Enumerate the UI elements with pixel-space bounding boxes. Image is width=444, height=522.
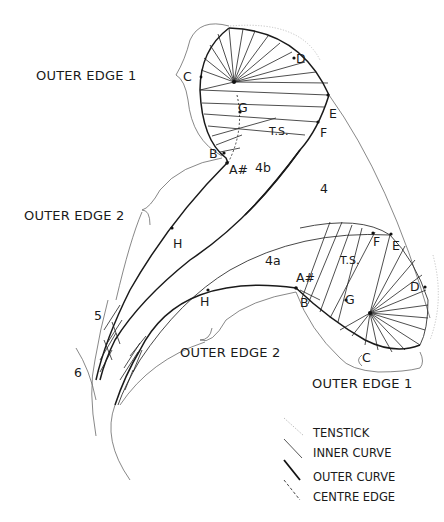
label-point-d-upper: D	[296, 51, 306, 66]
brace-outer-edge-2-lower	[200, 292, 296, 341]
label-h-upper: H	[173, 236, 182, 251]
legend-label-tenstick: TENSTICK	[312, 426, 370, 440]
label-region-4: 4	[320, 181, 328, 196]
legend: TENSTICK INNER CURVE OUTER CURVE CENTRE …	[284, 418, 395, 504]
label-point-f-lower: F	[373, 234, 380, 249]
label-outer-edge-2-lower: OUTER EDGE 2	[180, 345, 280, 360]
legend-label-inner-curve: INNER CURVE	[313, 446, 391, 460]
spokes-upper	[200, 28, 328, 152]
label-outer-edge-1-lower: OUTER EDGE 1	[312, 376, 412, 391]
diagram-canvas: OUTER EDGE 1 C D G E T.S. F B A# 4b 4 OU…	[0, 0, 444, 522]
label-num-6: 6	[74, 365, 82, 380]
label-point-d-lower: D	[410, 279, 420, 294]
label-num-5: 5	[94, 308, 102, 323]
label-point-b-lower: B	[300, 295, 309, 310]
legend-swatch-inner-curve	[284, 439, 302, 458]
label-outer-edge-1-upper: OUTER EDGE 1	[36, 68, 136, 83]
label-region-4b: 4b	[255, 160, 271, 175]
label-point-a-upper: A#	[229, 162, 248, 177]
legend-label-centre-edge: CENTRE EDGE	[313, 490, 395, 504]
label-point-c-lower: C	[362, 350, 371, 365]
outer-curve-lower-right	[300, 223, 428, 345]
tenstick-arc-upper	[230, 25, 320, 60]
label-h-lower: H	[200, 294, 209, 309]
legend-label-outer-curve: OUTER CURVE	[313, 470, 395, 484]
brace-leader-upper	[116, 212, 142, 300]
label-point-e-lower: E	[392, 238, 400, 253]
spokes-lower	[300, 222, 428, 352]
outer-curve-upper-left	[200, 28, 229, 163]
label-point-c-upper: C	[183, 69, 192, 84]
label-ts-upper: T.S.	[268, 125, 288, 138]
label-point-g-lower: G	[345, 292, 355, 307]
tenstick-arc-lower	[430, 255, 438, 340]
outer-sweep-bottom	[111, 405, 130, 480]
label-region-4a: 4a	[265, 253, 281, 268]
legend-swatch-tenstick	[284, 418, 304, 436]
label-outer-edge-2-upper: OUTER EDGE 2	[24, 208, 124, 223]
upper-petal	[176, 24, 330, 215]
label-point-e-upper: E	[329, 106, 337, 121]
legend-swatch-outer-curve	[284, 460, 300, 480]
label-point-g-upper: G	[238, 100, 248, 115]
label-ts-lower: T.S.	[339, 254, 359, 267]
label-point-a-lower: A#	[296, 270, 315, 285]
label-point-f-upper: F	[320, 125, 327, 140]
brace-outer-edge-2-upper	[142, 158, 222, 225]
label-point-b-upper: B	[209, 146, 218, 161]
legend-swatch-centre-edge	[284, 480, 300, 500]
